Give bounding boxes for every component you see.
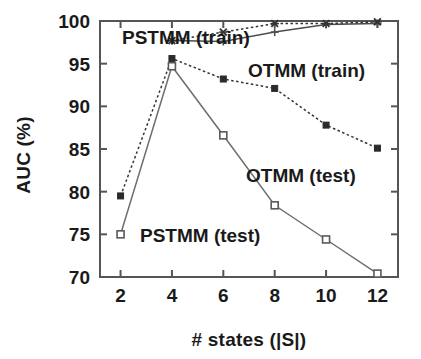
y-tick-label: 90	[69, 96, 90, 117]
y-tick-label: 95	[69, 54, 91, 75]
marker-pstmm-test	[323, 236, 330, 243]
marker-pstmm-test	[168, 63, 175, 70]
chart-figure: 707580859095100 24681012 PSTMM (train)OT…	[0, 0, 421, 359]
x-tick-label: 2	[115, 285, 126, 306]
marker-pstmm-test	[374, 270, 381, 277]
series-label-pstmm-test: PSTMM (test)	[140, 225, 260, 246]
y-tick-label: 70	[69, 267, 90, 288]
series-label-pstmm-train: PSTMM (train)	[122, 27, 250, 48]
y-tick-label: 75	[69, 224, 91, 245]
y-tick-label: 80	[69, 182, 90, 203]
marker-otmm-test	[374, 145, 380, 151]
marker-otmm-test	[272, 85, 278, 91]
auc-vs-states-line-chart: 707580859095100 24681012 PSTMM (train)OT…	[0, 0, 421, 359]
x-tick-label: 6	[218, 285, 229, 306]
x-tick-label: 12	[367, 285, 388, 306]
marker-otmm-test	[169, 56, 175, 62]
marker-otmm-test	[220, 76, 226, 82]
marker-pstmm-test	[271, 202, 278, 209]
x-tick-label: 10	[315, 285, 336, 306]
y-tick-label: 100	[58, 11, 90, 32]
chart-background	[0, 0, 421, 359]
y-tick-label: 85	[69, 139, 91, 160]
marker-pstmm-test	[117, 231, 124, 238]
x-axis-title: # states (|S|)	[192, 329, 307, 350]
y-axis-title: AUC (%)	[13, 116, 34, 193]
series-label-otmm-test: OTMM (test)	[246, 165, 356, 186]
marker-otmm-test	[323, 122, 329, 128]
series-label-otmm-train: OTMM (train)	[248, 60, 365, 81]
x-tick-label: 4	[167, 285, 178, 306]
x-tick-label: 8	[269, 285, 280, 306]
marker-pstmm-test	[220, 132, 227, 139]
marker-otmm-test	[118, 193, 124, 199]
